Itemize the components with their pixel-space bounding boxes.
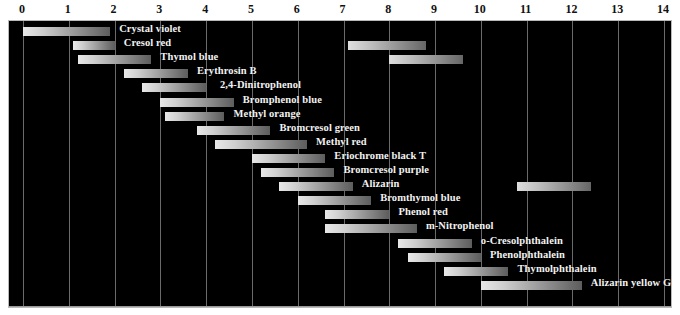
indicator-bar <box>517 182 590 191</box>
x-tick-label-10: 10 <box>474 2 486 16</box>
x-tick-label-2: 2 <box>111 2 117 16</box>
x-tick-label-5: 5 <box>248 2 254 16</box>
indicator-label: Cresol red <box>124 37 172 48</box>
indicator-label: Eriochrome black T <box>334 150 426 161</box>
x-tick-label-12: 12 <box>565 2 577 16</box>
indicator-row: Bromthymol blue <box>9 194 671 208</box>
indicator-bar <box>408 253 481 262</box>
indicator-row: Thymolphthalein <box>9 265 671 279</box>
indicator-row: Alizarin <box>9 180 671 194</box>
indicator-label: Bromthymol blue <box>380 192 460 203</box>
indicator-bar <box>197 126 270 135</box>
x-tick-label-8: 8 <box>385 2 391 16</box>
indicator-bar <box>78 55 151 64</box>
indicator-row: Bromcresol purple <box>9 166 671 180</box>
ph-indicator-chart: 01234567891011121314 Crystal violetCreso… <box>0 0 680 315</box>
indicator-bar <box>279 182 352 191</box>
x-tick-label-7: 7 <box>340 2 346 16</box>
indicator-label: Phenolphthalein <box>490 249 565 260</box>
indicator-label: Thymol blue <box>160 51 218 62</box>
x-tick-label-11: 11 <box>520 2 531 16</box>
indicator-label: Crystal violet <box>119 23 181 34</box>
indicator-label: Alizarin yellow GG <box>591 277 672 288</box>
x-tick-label-3: 3 <box>156 2 162 16</box>
indicator-bar <box>444 267 508 276</box>
indicator-label: m-Nitrophenol <box>426 220 494 231</box>
indicator-label: Bromcresol green <box>279 122 360 133</box>
x-tick-label-1: 1 <box>65 2 71 16</box>
indicator-label: Methyl orange <box>234 108 301 119</box>
indicator-bar <box>73 41 114 50</box>
plot-bottom-edge <box>9 306 671 307</box>
indicator-row: Alizarin yellow GG <box>9 279 671 293</box>
x-tick-label-6: 6 <box>294 2 300 16</box>
indicator-bar <box>142 83 206 92</box>
indicator-row: Eriochrome black T <box>9 152 671 166</box>
plot-area: Crystal violetCresol redThymol blueEryth… <box>8 20 672 308</box>
indicator-row: Phenol red <box>9 208 671 222</box>
indicator-label: Erythrosin B <box>197 65 257 76</box>
indicator-label: Phenol red <box>398 206 448 217</box>
indicator-bar <box>215 140 307 149</box>
indicator-row: Thymol blue <box>9 53 671 67</box>
indicator-label: Alizarin <box>362 178 400 189</box>
x-tick-label-9: 9 <box>431 2 437 16</box>
indicator-bar <box>481 281 582 290</box>
indicator-bar <box>165 112 225 121</box>
indicator-row: o-Cresolphthalein <box>9 237 671 251</box>
indicator-bar <box>348 41 426 50</box>
indicator-row: Erythrosin B <box>9 67 671 81</box>
indicator-label: 2,4-Dinitrophenol <box>220 79 301 90</box>
indicator-bar <box>389 55 462 64</box>
indicator-bar <box>252 154 325 163</box>
indicator-bar <box>124 69 188 78</box>
indicator-bar <box>325 210 389 219</box>
x-tick-label-13: 13 <box>611 2 623 16</box>
indicator-row: Crystal violet <box>9 25 671 39</box>
x-tick-label-4: 4 <box>202 2 208 16</box>
indicator-row: 2,4-Dinitrophenol <box>9 81 671 95</box>
indicator-bar <box>261 168 334 177</box>
indicator-label: Bromphenol blue <box>243 94 322 105</box>
x-tick-label-0: 0 <box>19 2 25 16</box>
indicator-label: Bromcresol purple <box>344 164 430 175</box>
indicator-bar <box>325 224 417 233</box>
indicator-label: Methyl red <box>316 136 367 147</box>
indicator-bar <box>298 196 371 205</box>
indicator-row: m-Nitrophenol <box>9 222 671 236</box>
indicator-row: Bromphenol blue <box>9 96 671 110</box>
indicator-row: Cresol red <box>9 39 671 53</box>
x-axis-tick-labels: 01234567891011121314 <box>0 0 680 22</box>
indicator-bar <box>23 27 110 36</box>
indicator-label: Thymolphthalein <box>517 263 596 274</box>
x-tick-label-14: 14 <box>657 2 669 16</box>
indicator-bar <box>398 239 471 248</box>
indicator-label: o-Cresolphthalein <box>481 235 563 246</box>
indicator-bar <box>160 98 233 107</box>
